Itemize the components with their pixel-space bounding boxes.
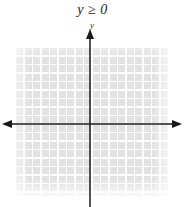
y-axis-up-arrow-icon <box>86 29 94 39</box>
y-axis-label: y <box>85 20 99 30</box>
coordinate-axes <box>0 0 185 207</box>
x-axis-left-arrow-icon <box>2 120 12 128</box>
x-axis-right-arrow-icon <box>172 120 182 128</box>
inequality-graph-figure: y ≥ 0 y <box>0 0 185 207</box>
